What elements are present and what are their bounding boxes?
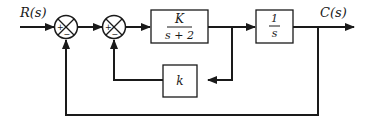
integrator-block: 1 s <box>256 10 293 43</box>
output-label: C(s) <box>320 5 347 20</box>
summing-junction-1: + − <box>55 16 78 40</box>
plant-numerator: K <box>174 12 185 26</box>
integrator-numerator: 1 <box>271 12 278 25</box>
inner-feedback-gain: k <box>176 74 183 88</box>
plant-block: K s + 2 <box>151 10 208 43</box>
inner-feedback-path-in <box>208 27 232 80</box>
minus-sign: − <box>112 30 119 39</box>
inner-feedback-path-out <box>114 40 163 80</box>
summing-junction-2: + − <box>103 16 126 40</box>
input-label: R(s) <box>19 5 47 20</box>
integrator-denominator: s <box>272 27 278 40</box>
minus-sign: − <box>64 30 71 39</box>
plant-denominator: s + 2 <box>165 29 194 42</box>
block-diagram: R(s) + − + − K s + 2 1 s C(s) k <box>0 0 368 125</box>
inner-feedback-block: k <box>163 65 197 97</box>
